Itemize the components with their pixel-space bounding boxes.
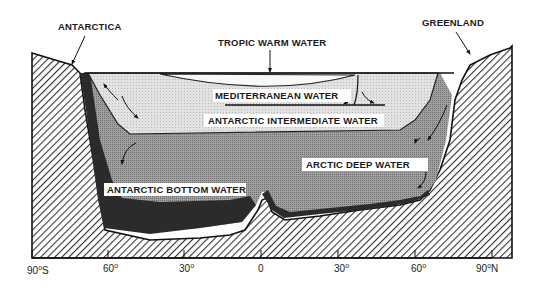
tick-60s: 60o xyxy=(103,262,118,274)
tick-60n: 60o xyxy=(411,262,426,274)
label-antarctic-intermediate-water: ANTARCTIC INTERMEDIATE WATER xyxy=(208,115,378,126)
label-antarctica: ANTARCTICA xyxy=(58,21,122,32)
ocean-circulation-diagram: ANTARCTICA GREENLAND TROPIC WARM WATER M… xyxy=(0,0,543,292)
tick-0: 0 xyxy=(258,263,264,274)
label-greenland: GREENLAND xyxy=(422,17,484,28)
x-axis-tick-labels: 90oS 60o 30o 0 30o 60o 90oN xyxy=(27,262,498,276)
tick-90n: 90oN xyxy=(476,262,498,274)
label-tropic-warm-water: TROPIC WARM WATER xyxy=(218,37,326,48)
greenland-pointer xyxy=(456,32,470,54)
tick-30n: 30o xyxy=(334,262,349,274)
tick-30s: 30o xyxy=(179,262,194,274)
tick-90s: 90oS xyxy=(27,264,49,276)
label-antarctic-bottom-water: ANTARCTIC BOTTOM WATER xyxy=(107,184,246,195)
antarctica-pointer xyxy=(72,36,85,64)
label-mediterranean-water: MEDITERRANEAN WATER xyxy=(215,90,338,101)
label-arctic-deep-water: ARCTIC DEEP WATER xyxy=(306,159,410,170)
